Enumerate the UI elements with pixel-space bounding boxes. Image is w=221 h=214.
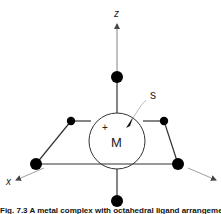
figure-caption: Fig. 7.3 A metal complex with octahedral… (0, 206, 221, 214)
back-left-ligand-atom (67, 117, 75, 125)
back-right-ligand-atom (160, 117, 168, 125)
center-atom-label: M (111, 135, 122, 150)
front-right-ligand-atom (172, 158, 184, 170)
x-axis (16, 168, 44, 180)
charge-sign: + (102, 122, 108, 133)
edge-left (36, 121, 71, 164)
top-ligand-atom (111, 71, 123, 83)
y-axis (188, 168, 216, 180)
z-axis-label: z (113, 8, 119, 19)
front-left-ligand-atom (30, 158, 42, 170)
x-axis-label: x (5, 176, 12, 187)
spin-label: s (150, 88, 156, 102)
ligand-diagram: z x M + s (0, 0, 221, 214)
edge-right (164, 121, 178, 164)
